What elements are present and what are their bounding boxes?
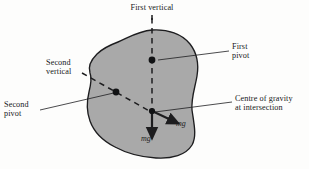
centre-of-gravity-dot	[149, 108, 155, 114]
second-pivot-label-line2: pivot	[4, 109, 21, 119]
first-pivot-dot	[149, 57, 156, 64]
diagram-svg	[0, 0, 309, 169]
weight-vector-tilted-label: mg	[176, 119, 186, 128]
weight-vector-vertical-label: mg	[141, 134, 151, 143]
first-vertical-label: First vertical	[104, 3, 200, 13]
figure-container: First vertical First pivot Second vertic…	[0, 0, 309, 169]
second-vertical-label-line2: vertical	[46, 67, 71, 77]
centre-of-gravity-label-line2: at intersection	[235, 103, 283, 113]
first-pivot-label-line2: pivot	[232, 51, 249, 61]
second-pivot-dot	[113, 89, 120, 96]
